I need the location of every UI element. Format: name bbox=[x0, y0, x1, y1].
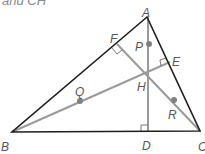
altitude-CF bbox=[117, 44, 200, 131]
point-R bbox=[171, 97, 177, 103]
label-F: F bbox=[110, 32, 118, 46]
label-H: H bbox=[137, 80, 146, 94]
label-B: B bbox=[1, 140, 9, 154]
label-Q: Q bbox=[75, 85, 84, 99]
label-E: E bbox=[172, 55, 181, 69]
label-P: P bbox=[135, 40, 143, 54]
point-P bbox=[146, 41, 152, 47]
altitude-BE bbox=[12, 62, 170, 132]
label-R: R bbox=[168, 108, 177, 122]
label-A: A bbox=[141, 6, 150, 20]
label-D: D bbox=[142, 139, 151, 153]
triangle-diagram: A B C D E F H P Q R bbox=[0, 0, 205, 154]
label-C: C bbox=[198, 140, 205, 154]
